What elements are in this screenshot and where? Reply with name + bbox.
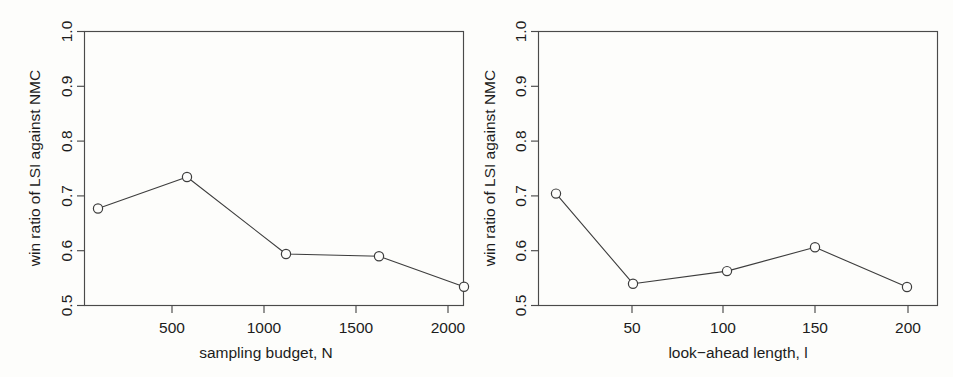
x-tick-label: 100: [710, 319, 736, 336]
data-point: [902, 282, 911, 291]
two-panel-figure: 1.0 0.9 0.8 0.7 0.6 0.5 win ratio of LSI…: [0, 0, 953, 377]
y-tick-label: 0.6: [512, 240, 529, 262]
data-point: [374, 252, 383, 261]
x-axis-tick-labels: 500 1000 1500 2000: [159, 319, 466, 336]
right-plot-svg: 1.0 0.9 0.8 0.7 0.6 0.5 win ratio of LSI…: [476, 0, 953, 377]
x-axis-title: look−ahead length, l: [668, 344, 807, 361]
y-tick-label: 1.0: [58, 20, 75, 42]
sampling-budget-panel: 1.0 0.9 0.8 0.7 0.6 0.5 win ratio of LSI…: [0, 0, 476, 377]
x-tick-label: 1000: [247, 319, 282, 336]
y-tick-label: 0.9: [512, 76, 529, 98]
y-axis-tick-labels: 1.0 0.9 0.8 0.7 0.6 0.5: [58, 20, 75, 316]
data-point: [551, 189, 560, 198]
y-axis-title: win ratio of LSI against NMC: [481, 70, 498, 267]
series-line: [98, 177, 464, 287]
y-tick-label: 1.0: [512, 20, 529, 42]
plot-frame: [539, 32, 938, 306]
y-tick-label: 0.5: [58, 295, 75, 317]
x-tick-label: 1500: [339, 319, 374, 336]
data-point: [459, 282, 468, 291]
y-tick-label: 0.6: [58, 240, 75, 262]
look-ahead-length-panel: 1.0 0.9 0.8 0.7 0.6 0.5 win ratio of LSI…: [476, 0, 953, 377]
x-axis-ticks: [632, 306, 908, 314]
data-point: [628, 279, 637, 288]
x-axis-title: sampling budget, N: [199, 344, 333, 361]
plot-frame: [85, 32, 464, 306]
series-markers: [551, 189, 911, 292]
y-tick-label: 0.7: [512, 185, 529, 207]
x-tick-label: 500: [159, 319, 185, 336]
y-axis-ticks: [531, 32, 539, 306]
data-point: [722, 267, 731, 276]
y-tick-label: 0.5: [512, 295, 529, 317]
y-tick-label: 0.8: [58, 130, 75, 152]
x-tick-label: 150: [802, 319, 828, 336]
y-axis-tick-labels: 1.0 0.9 0.8 0.7 0.6 0.5: [512, 20, 529, 316]
x-axis-ticks: [172, 306, 448, 314]
left-plot-svg: 1.0 0.9 0.8 0.7 0.6 0.5 win ratio of LSI…: [0, 0, 476, 377]
y-axis-ticks: [77, 32, 85, 306]
x-axis-tick-labels: 50 100 150 200: [623, 319, 921, 336]
data-point: [93, 204, 102, 213]
y-tick-label: 0.7: [58, 185, 75, 207]
data-point: [281, 249, 290, 258]
data-point: [810, 243, 819, 252]
data-point: [182, 172, 191, 181]
x-tick-label: 200: [895, 319, 921, 336]
x-tick-label: 50: [623, 319, 641, 336]
y-tick-label: 0.8: [512, 130, 529, 152]
x-tick-label: 2000: [431, 319, 466, 336]
y-tick-label: 0.9: [58, 76, 75, 98]
y-axis-title: win ratio of LSI against NMC: [26, 70, 43, 267]
